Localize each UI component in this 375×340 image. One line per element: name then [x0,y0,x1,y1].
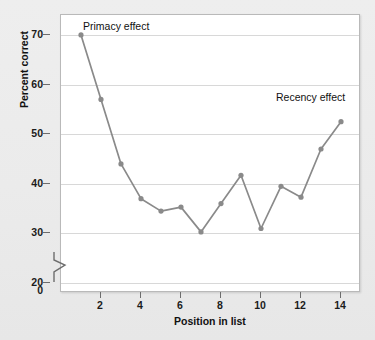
x-tick-label: 12 [285,299,315,311]
data-point [158,209,163,214]
plot-area [60,14,360,292]
data-point [238,173,243,178]
data-point [98,97,103,102]
x-tick-label: 6 [165,299,195,311]
x-tick-label: 10 [245,299,275,311]
x-tick-mark [220,292,221,298]
y-tick-mark [43,183,50,184]
annotation-primacy-effect: Primacy effect [83,20,149,32]
x-tick-mark [340,292,341,298]
data-point [278,184,283,189]
data-point [318,146,323,151]
x-tick-label: 4 [125,299,155,311]
y-tick-mark [43,84,50,85]
annotation-recency-effect: Recency effect [276,91,345,103]
data-point [138,196,143,201]
data-point [78,32,83,37]
data-series-line [61,15,361,293]
x-tick-mark [180,292,181,298]
serial-position-curve-figure: 2030405060700 Percent correct 2468101214… [0,0,375,340]
data-point [298,195,303,200]
x-tick-label: 14 [325,299,355,311]
data-point [338,119,343,124]
data-point [218,201,223,206]
y-tick-label: 30 [13,227,43,237]
data-point [118,161,123,166]
x-tick-mark [140,292,141,298]
x-tick-mark [260,292,261,298]
x-tick-label: 8 [205,299,235,311]
y-axis: 2030405060700 [0,0,60,292]
x-axis: 2468101214 [0,292,375,316]
x-axis-title: Position in list [60,315,360,327]
y-tick-mark [43,282,50,283]
series-markers [78,32,343,234]
y-tick-mark [43,232,50,233]
y-axis-break-icon [52,252,68,282]
y-tick-label: 40 [13,178,43,188]
chart-screenshot: 2030405060700 Percent correct 2468101214… [0,0,375,340]
x-tick-mark [300,292,301,298]
y-tick-mark [43,34,50,35]
data-point [258,226,263,231]
y-tick-label: 50 [13,128,43,138]
y-axis-title: Percent correct [18,94,30,108]
data-point [178,205,183,210]
series-polyline [81,35,341,232]
data-point [198,229,203,234]
x-tick-label: 2 [85,299,115,311]
y-tick-mark [43,133,50,134]
x-tick-mark [100,292,101,298]
